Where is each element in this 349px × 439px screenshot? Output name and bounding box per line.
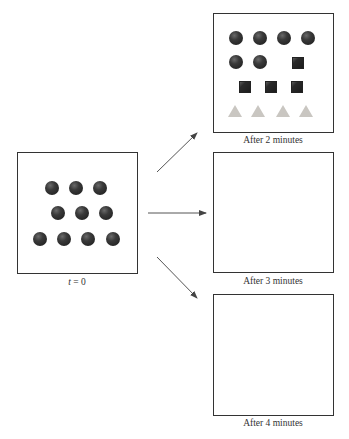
square-icon [239,81,251,93]
panel-t0-label: t = 0 [7,277,147,287]
square-icon [292,57,304,69]
circle-icon [33,232,47,246]
panel-after-3-minutes [213,152,334,273]
circle-icon [93,181,107,195]
panel-after-4-minutes [213,294,334,416]
triangle-icon [299,105,313,117]
panel-after-2-minutes-label: After 2 minutes [203,135,343,145]
circle-icon [301,31,315,45]
time-value: = 0 [71,277,86,287]
circle-icon [277,31,291,45]
circle-icon [106,232,120,246]
square-icon [291,81,303,93]
circle-icon [253,55,267,69]
triangle-icon [228,105,242,117]
circle-icon [253,31,267,45]
circle-icon [69,181,83,195]
circle-icon [45,181,59,195]
circle-icon [75,206,89,220]
triangle-icon [251,105,265,117]
circle-icon [81,232,95,246]
circle-icon [229,31,243,45]
panel-after-4-minutes-label: After 4 minutes [203,418,343,428]
panel-after-3-minutes-label: After 3 minutes [203,276,343,286]
triangle-icon [276,105,290,117]
arrow-to-4min [157,257,197,298]
circle-icon [57,232,71,246]
circle-icon [229,55,243,69]
circle-icon [99,206,113,220]
arrow-to-2min [157,133,197,172]
circle-icon [51,206,65,220]
square-icon [265,81,277,93]
